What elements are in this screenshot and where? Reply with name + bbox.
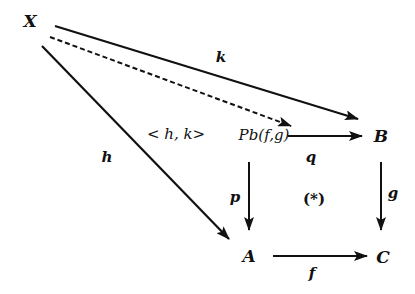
label-f: f [309, 266, 315, 281]
label-q: q [306, 150, 317, 165]
node-pullback: Pb(f,g) [239, 128, 290, 143]
arrow-pairing-dashed [50, 37, 291, 126]
node-x: X [23, 13, 36, 30]
label-k: k [216, 50, 226, 65]
label-g: g [388, 186, 399, 201]
pullback-diagram [0, 0, 415, 294]
node-c: C [376, 249, 390, 266]
node-b: B [374, 128, 388, 145]
node-a: A [242, 248, 255, 265]
arrow-h [42, 46, 229, 239]
label-commutative-marker: (*) [303, 192, 325, 207]
label-h: h [102, 150, 113, 165]
label-p: p [230, 190, 241, 205]
label-pairing: < h, k> [147, 127, 205, 142]
